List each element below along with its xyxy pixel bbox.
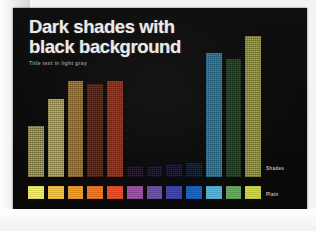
plain-swatch [166, 186, 182, 199]
plain-swatch [28, 186, 44, 199]
bar-cell [226, 36, 242, 177]
plain-swatch [226, 186, 242, 199]
shades-bar [206, 53, 222, 177]
swatch-cell [245, 186, 261, 199]
shades-bar [245, 36, 261, 177]
plain-swatch [68, 186, 84, 199]
swatch-cell [68, 186, 84, 199]
legend-label-plain: Plain [263, 192, 297, 197]
legend-label-shades: Shades [263, 166, 297, 171]
swatch-cell [206, 186, 222, 199]
swatch-cell [186, 186, 202, 199]
swatch-cell [87, 186, 103, 199]
shades-bar [48, 99, 64, 177]
scan-page-background: Dark shades with black background Title … [0, 0, 316, 231]
swatch-cell [28, 186, 44, 199]
bar-cell [206, 36, 222, 177]
plain-swatch-series [28, 186, 261, 199]
shades-bar [166, 164, 182, 177]
plain-swatch [147, 186, 163, 199]
swatch-cell [48, 186, 64, 199]
bar-cell [186, 36, 202, 177]
plain-swatch [87, 186, 103, 199]
bar-cell [245, 36, 261, 177]
swatch-cell [127, 186, 143, 199]
slide-title-line-2: black background [29, 37, 181, 57]
shades-bar [147, 166, 163, 177]
shades-bar [68, 81, 84, 177]
shades-bar [127, 166, 143, 177]
slide-title-line-1: Dark shades with [29, 17, 181, 37]
plain-swatch [206, 186, 222, 199]
plain-swatch [127, 186, 143, 199]
shades-bar [226, 59, 242, 177]
plain-swatch [107, 186, 123, 199]
title-block: Dark shades with black background Title … [29, 17, 181, 66]
plain-swatch [48, 186, 64, 199]
swatch-cell [147, 186, 163, 199]
shades-bar [186, 163, 202, 177]
slide-subtitle: Title text in light gray [29, 60, 181, 66]
swatch-cell [166, 186, 182, 199]
shades-bar [87, 84, 103, 177]
shades-bar [107, 81, 123, 177]
swatch-cell [107, 186, 123, 199]
swatch-cell [226, 186, 242, 199]
plain-swatch [245, 186, 261, 199]
presentation-slide: Dark shades with black background Title … [13, 8, 307, 213]
plain-swatch [186, 186, 202, 199]
shades-bar [28, 126, 44, 177]
